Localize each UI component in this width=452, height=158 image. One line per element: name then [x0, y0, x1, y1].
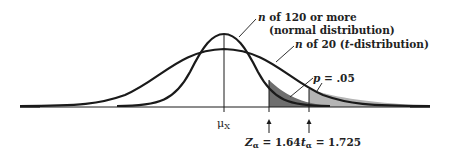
mu-label: μX: [217, 117, 230, 131]
t-distribution-curve: [20, 49, 430, 106]
z-arrow-icon: [267, 119, 272, 133]
normal-leader: [239, 19, 256, 37]
t-leader: [276, 46, 294, 62]
z-alpha-label: Zα = 1.64: [244, 136, 301, 150]
normal-sublabel: (normal distribution): [269, 24, 395, 36]
t-alpha-label: tα = 1.725: [301, 136, 361, 150]
p-label: p = .05: [313, 72, 355, 84]
t-label: n of 20 (t-distribution): [295, 38, 429, 50]
distribution-diagram: n of 120 or more (normal distribution) n…: [0, 0, 452, 158]
t-arrow-icon: [307, 119, 312, 133]
normal-label: n of 120 or more: [258, 11, 357, 23]
p-leader-2: [317, 83, 322, 91]
